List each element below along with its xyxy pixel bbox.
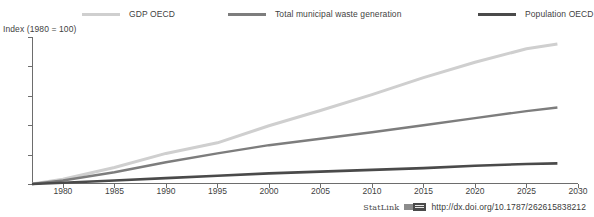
y-tick-mark [28, 155, 32, 156]
x-tick-label: 2005 [311, 186, 330, 196]
chart-figure: GDP OECD Total municipal waste generatio… [0, 0, 594, 217]
legend-label-gdp-oecd: GDP OECD [129, 9, 175, 19]
statlink-label: StatLink [363, 203, 399, 212]
x-tick-label: 1980 [53, 186, 72, 196]
x-tick-label: 2020 [466, 186, 485, 196]
y-tick-mark [28, 184, 32, 185]
y-tick-mark [28, 37, 32, 38]
legend-swatch-total-municipal-waste-generation [228, 13, 266, 16]
series-lines [32, 37, 578, 184]
legend-swatch-gdp-oecd [82, 13, 120, 16]
x-tick-label: 2000 [259, 186, 278, 196]
y-tick-mark [28, 96, 32, 97]
x-tick-label: 1990 [156, 186, 175, 196]
y-tick-mark [28, 66, 32, 67]
statlink-footer: StatLink http://dx.doi.org/10.1787/26261… [0, 200, 594, 214]
statlink-url[interactable]: http://dx.doi.org/10.1787/262615838212 [431, 202, 586, 212]
plot-area [32, 37, 578, 184]
legend-item-total-municipal-waste-generation: Total municipal waste generation [228, 6, 402, 22]
x-tick-label: 1985 [105, 186, 124, 196]
legend-label-total-municipal-waste-generation: Total municipal waste generation [275, 9, 402, 19]
x-tick-label: 2015 [414, 186, 433, 196]
x-axis-tick-labels: 1980198519901995200020052010201520202025… [32, 186, 578, 198]
legend-swatch-population-oecd [478, 13, 516, 16]
series-line [32, 44, 557, 184]
x-tick-label: 2010 [362, 186, 381, 196]
y-tick-mark [28, 125, 32, 126]
legend-label-population-oecd: Population OECD [525, 9, 594, 19]
legend-item-gdp-oecd: GDP OECD [82, 6, 175, 22]
x-tick-label: 2030 [569, 186, 588, 196]
statlink-icon [404, 203, 426, 211]
x-tick-label: 2025 [517, 186, 536, 196]
chart-legend: GDP OECD Total municipal waste generatio… [0, 6, 594, 22]
y-axis-title: Index (1980 = 100) [3, 24, 76, 34]
legend-item-population-oecd: Population OECD [478, 6, 594, 22]
x-tick-label: 1995 [208, 186, 227, 196]
